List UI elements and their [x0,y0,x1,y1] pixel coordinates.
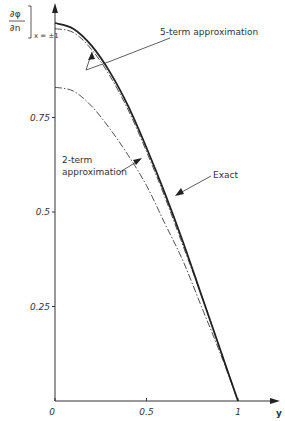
y-axis-arrow-icon [52,3,58,13]
y-label-numerator: ∂φ [10,9,21,19]
arrow-icon [133,158,142,165]
x-tick-label: 0.5 [139,407,154,417]
y-tick-label: 0.75 [30,113,50,123]
arrow-icon [175,188,184,196]
x-tick-label: 1 [235,407,241,417]
arrow-icon [88,52,95,60]
series-2-term-approximation [55,87,238,401]
y-label-denominator: ∂n [10,23,20,33]
y-label-subscript: x = ±1 [34,32,59,40]
y-axis-label: ∂φ ∂n x = ±1 [9,6,59,40]
annotation-2-term-line2: approximation [62,167,127,177]
y-tick-label: 0.25 [30,302,50,312]
axes [55,10,272,401]
annotation-exact: Exact [175,170,238,196]
annotation-exact-label: Exact [213,170,238,180]
series-5-term-approximation [55,29,238,401]
annotation-5-term-label: 5-term approximation [160,27,258,37]
x-axis-label: y [276,408,282,418]
y-ticks: 0.250.50.75 [30,113,55,312]
chart: 0.250.50.75 00.51 ∂φ ∂n x = ±1 y 5-term … [0,0,285,421]
x-axis-arrow-icon [270,398,280,404]
annotation-2-term: 2-term approximation [62,155,142,177]
annotation-5-term: 5-term approximation [86,27,258,70]
series-exact [55,23,238,401]
curves [55,23,238,401]
annotation-2-term-line1: 2-term [62,155,92,165]
y-tick-label: 0.5 [36,207,51,217]
x-tick-label: 0 [49,407,55,417]
